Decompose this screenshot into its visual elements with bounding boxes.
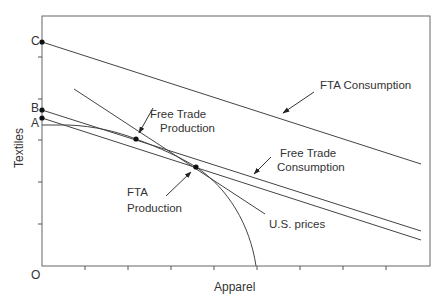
fta-consumption-arrow [283, 92, 314, 113]
free-trade-consumption-arrow [254, 157, 271, 174]
us-prices-label: U.S. prices [269, 217, 325, 231]
free-trade-production-label-2: Production [160, 121, 215, 135]
fta-production-label-2: Production [127, 201, 182, 215]
budget-line-C [42, 42, 421, 164]
x-axis-ticks [85, 266, 386, 270]
intercept-label-a: A [31, 116, 39, 130]
free-trade-consumption-label-2: Consumption [277, 160, 345, 174]
free-trade-production-label-1: Free Trade [150, 107, 206, 121]
plot-frame [42, 16, 430, 266]
budget-line-A [42, 118, 421, 240]
point-C [39, 39, 44, 44]
diagram-canvas [0, 0, 446, 304]
point-A [39, 115, 44, 120]
intercept-label-c: C [31, 34, 40, 48]
fta-consumption-label: FTA Consumption [320, 78, 411, 92]
y-axis-ticks [38, 57, 42, 224]
production-possibility-frontier [42, 125, 256, 266]
point-B [39, 107, 44, 112]
y-axis-label: Textiles [12, 123, 26, 173]
fta-production-point [193, 164, 198, 169]
fta-production-label-1: FTA [127, 185, 148, 199]
fta-production-arrow [166, 172, 191, 196]
origin-label: O [31, 268, 40, 282]
x-axis-label: Apparel [214, 280, 255, 294]
intercept-label-b: B [31, 101, 39, 115]
free-trade-consumption-label-1: Free Trade [280, 146, 336, 160]
free-trade-production-point [133, 136, 138, 141]
